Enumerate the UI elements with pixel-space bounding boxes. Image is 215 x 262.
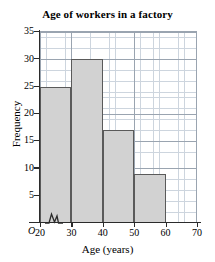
histogram-figure: Age of workers in a factory 5 10 15 20 2… [0, 0, 215, 262]
bar-20-30 [40, 87, 71, 223]
y-tick-25 [34, 86, 39, 87]
x-axis-title: Age (years) [0, 243, 215, 255]
origin-label: O [28, 225, 35, 236]
y-tick-10 [34, 167, 39, 168]
y-tick-20 [34, 113, 39, 114]
x-tick-label-70: 70 [185, 228, 209, 238]
x-tick-label-50: 50 [122, 228, 146, 238]
y-tick-label-35: 35 [4, 26, 34, 36]
y-tick-label-30: 30 [4, 54, 34, 64]
axis-break-icon [45, 211, 63, 224]
chart-title: Age of workers in a factory [0, 8, 215, 20]
y-tick-15 [34, 140, 39, 141]
y-tick-30 [34, 58, 39, 59]
bar-40-50 [103, 130, 134, 223]
y-tick-5 [34, 195, 39, 196]
x-tick-label-40: 40 [91, 228, 115, 238]
y-tick-35 [34, 31, 39, 32]
x-tick-label-60: 60 [154, 228, 178, 238]
bar-50-60 [134, 174, 165, 223]
y-tick-label-5: 5 [4, 190, 34, 200]
x-tick-label-30: 30 [59, 228, 83, 238]
bar-30-40 [71, 59, 102, 223]
y-axis-line [39, 30, 40, 223]
y-axis-title: Frequency [10, 64, 22, 184]
